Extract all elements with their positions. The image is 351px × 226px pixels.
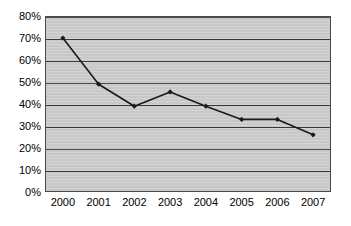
x-axis-tick-label: 2004	[186, 197, 226, 208]
data-point-marker	[203, 104, 208, 109]
series-line	[63, 38, 313, 135]
x-axis-tick-label: 2007	[293, 197, 333, 208]
y-axis-tick-label: 0%	[0, 187, 41, 198]
x-axis-tick-label: 2005	[222, 197, 262, 208]
y-axis-tick-label: 40%	[0, 99, 41, 110]
y-axis-tick-label: 80%	[0, 11, 41, 22]
y-axis-tick-label: 20%	[0, 143, 41, 154]
x-axis-tick-label: 2006	[257, 197, 297, 208]
x-axis-tick-label: 2000	[43, 197, 83, 208]
data-series-layer	[45, 16, 331, 192]
data-point-marker	[168, 89, 173, 94]
y-axis-tick-label: 10%	[0, 165, 41, 176]
data-point-marker	[239, 117, 244, 122]
y-axis-tick-label: 70%	[0, 33, 41, 44]
x-axis-tick-label: 2001	[79, 197, 119, 208]
y-axis-tick-label: 50%	[0, 77, 41, 88]
y-axis-tick-label: 60%	[0, 55, 41, 66]
x-axis-tick-label: 2003	[150, 197, 190, 208]
data-point-marker	[311, 132, 316, 137]
y-axis-tick-label: 30%	[0, 121, 41, 132]
data-point-marker	[275, 117, 280, 122]
x-axis-tick-label: 2002	[114, 197, 154, 208]
line-chart: 0%10%20%30%40%50%60%70%80% 2000200120022…	[0, 0, 351, 226]
